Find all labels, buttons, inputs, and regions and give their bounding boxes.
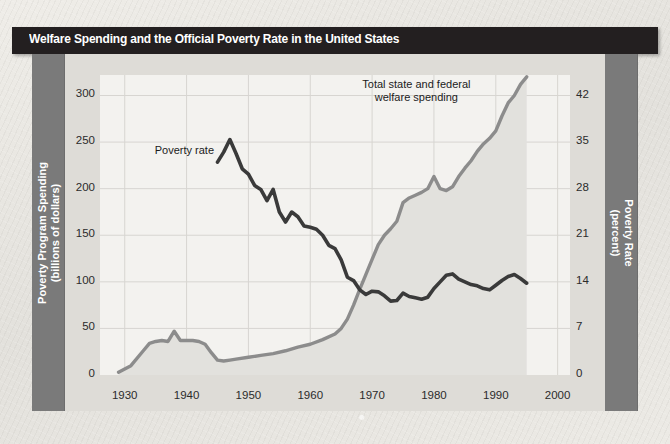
x-axis-tick-label: 1940 [174, 389, 200, 401]
x-axis-tick-label: 1960 [297, 389, 323, 401]
chart-body: Poverty Program Spending (billions of do… [12, 54, 658, 411]
chart-canvas [100, 75, 570, 375]
y2-axis-tick-label: 28 [576, 181, 589, 193]
annotation-poverty-label: Poverty rate [144, 144, 224, 157]
y2-axis-tick-label: 7 [576, 320, 582, 332]
y2-axis-tick-label: 21 [576, 227, 589, 239]
y-axis-tick-label: 0 [89, 367, 95, 379]
y-axis-tick-label: 200 [76, 181, 95, 193]
figure-card: Welfare Spending and the Official Povert… [12, 27, 658, 411]
y-axis-tick-label: 250 [76, 134, 95, 146]
left-axis-title: Poverty Program Spending (billions of do… [36, 83, 62, 383]
annotation-spending-label: Total state and federal welfare spending [341, 78, 491, 104]
y-axis-tick-label: 100 [76, 274, 95, 286]
y2-axis-tick-label: 0 [576, 367, 582, 379]
x-axis-tick-label: 2000 [545, 389, 571, 401]
y-axis-tick-label: 50 [82, 320, 95, 332]
y2-axis-tick-label: 35 [576, 134, 589, 146]
x-axis-tick-label: 1930 [112, 389, 138, 401]
y2-axis-tick-label: 14 [576, 274, 589, 286]
x-axis-tick-label: 1950 [236, 389, 262, 401]
y-axis-tick-label: 150 [76, 227, 95, 239]
plot-area [100, 75, 570, 375]
y2-axis-tick-label: 42 [576, 88, 589, 100]
left-axis-band: Poverty Program Spending (billions of do… [32, 54, 65, 411]
figure-title-bar: Welfare Spending and the Official Povert… [12, 27, 658, 54]
right-axis-title: Poverty Rate (percent) [609, 83, 635, 383]
x-axis-tick-label: 1990 [483, 389, 509, 401]
x-axis-tick-label: 1980 [421, 389, 447, 401]
x-axis-tick-label: 1970 [359, 389, 385, 401]
y-axis-tick-label: 300 [76, 87, 95, 99]
right-axis-band: Poverty Rate (percent) [605, 54, 638, 411]
figure-title: Welfare Spending and the Official Povert… [29, 32, 399, 46]
